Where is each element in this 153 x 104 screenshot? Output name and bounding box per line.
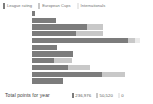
total-swatch-icon [118,93,120,98]
total-points-label: Total points for year [5,92,50,98]
bar-segment[interactable] [128,38,135,43]
total-value: 236,976 [75,93,91,98]
legend-swatch-european-cups-icon [38,3,40,9]
bar-track [32,11,35,16]
legend-item-label: League rating [7,3,32,9]
bar-track [32,38,140,43]
bar-segment[interactable] [32,18,56,23]
bar-row[interactable] [0,51,153,57]
totals-group: 236,97650,5200 [72,93,124,98]
bar-row[interactable] [0,38,153,44]
bar-track [32,78,63,83]
total-item: 50,520 [96,93,113,98]
bar-row[interactable] [0,11,153,17]
chart-plot-area [0,11,153,85]
bar-row[interactable] [0,18,153,24]
bar-row[interactable] [0,58,153,64]
total-swatch-icon [72,93,74,98]
total-item: 0 [118,93,124,98]
bar-track [32,72,125,77]
bar-segment[interactable] [68,65,90,70]
bar-segment[interactable] [32,72,102,77]
bar-track [32,65,90,70]
legend-item[interactable]: Internationals [77,2,106,10]
bar-segment[interactable] [32,51,73,56]
bar-row[interactable] [0,31,153,37]
legend-item-label: Internationals [81,3,106,9]
total-value: 50,520 [99,93,112,98]
bar-segment[interactable] [54,58,72,63]
bar-segment[interactable] [32,31,76,36]
bar-row[interactable] [0,45,153,51]
bar-track [32,51,73,56]
bar-segment[interactable] [32,78,63,83]
bar-segment[interactable] [32,24,87,29]
bar-segment[interactable] [76,31,103,36]
bar-row[interactable] [0,78,153,84]
bar-track [32,45,57,50]
chart-legend: League ratingEuropean CupsInternationals [3,2,105,10]
legend-swatch-league-rating-icon [3,3,5,9]
bar-track [32,24,103,29]
bar-segment[interactable] [32,58,54,63]
legend-item-label: European Cups [42,3,70,9]
chart-footer-totals: Total points for year 236,97650,5200 [0,86,153,104]
bar-track [32,18,56,23]
bar-segment[interactable] [32,38,128,43]
bar-segment[interactable] [32,65,68,70]
bar-row[interactable] [0,24,153,30]
bar-segment[interactable] [32,45,57,50]
bar-segment[interactable] [87,24,103,29]
total-swatch-icon [96,93,98,98]
bar-row[interactable] [0,65,153,71]
legend-item[interactable]: European Cups [38,2,70,10]
total-item: 236,976 [72,93,91,98]
bar-track [32,58,72,63]
bar-segment[interactable] [135,38,140,43]
bar-segment[interactable] [102,72,125,77]
bar-track [32,31,103,36]
bar-segment[interactable] [32,11,35,16]
bar-row[interactable] [0,72,153,78]
stacked-bar-chart-widget: League ratingEuropean CupsInternationals… [0,0,153,104]
legend-swatch-internationals-icon [77,3,79,9]
legend-item[interactable]: League rating [3,2,32,10]
total-value: 0 [121,93,123,98]
